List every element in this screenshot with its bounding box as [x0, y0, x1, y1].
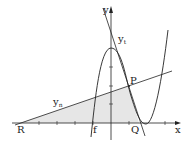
y-axis-arrow-icon	[109, 6, 113, 13]
y-axis-label: y	[102, 4, 109, 15]
tangent-n-label: yn	[52, 96, 63, 108]
diagram: y x R P Q f yt yn	[0, 0, 190, 146]
point-R-label: R	[17, 124, 25, 135]
point-Q-label: Q	[131, 124, 139, 135]
tangent-t-label: yt	[117, 33, 127, 45]
x-axis-label: x	[175, 124, 181, 135]
curve-f-label: f	[93, 124, 98, 135]
point-P-label: P	[130, 75, 137, 86]
